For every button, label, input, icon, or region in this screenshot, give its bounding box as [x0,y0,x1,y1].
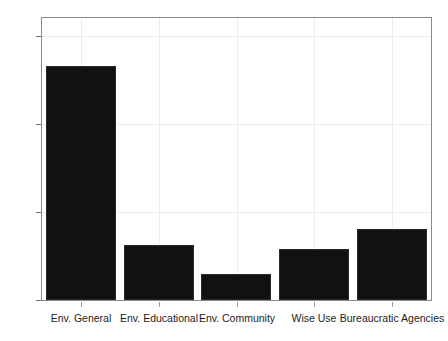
x-tick-mark [314,302,315,307]
bar[interactable] [357,229,427,300]
plot-inner [42,18,431,300]
bar[interactable] [279,249,349,300]
gridline-vertical [237,18,238,300]
y-tick-mark [36,124,41,125]
bar[interactable] [201,274,271,300]
plot-area [41,17,432,301]
x-tick-label: Bureaucratic Agencies [340,313,444,324]
x-tick-mark [237,302,238,307]
bar[interactable] [46,66,116,300]
bar[interactable] [124,245,194,300]
x-tick-label: Env. Educational [120,313,198,324]
y-tick-mark [36,36,41,37]
x-tick-mark [81,302,82,307]
x-tick-label: Wise Use [292,313,337,324]
x-tick-mark [159,302,160,307]
x-tick-label: Env. General [51,313,112,324]
x-tick-label: Env. Community [199,313,275,324]
y-tick-mark [36,300,41,301]
x-tick-mark [392,302,393,307]
y-tick-mark [36,212,41,213]
bar-chart: 050100150 Env. GeneralEnv. EducationalEn… [0,0,448,341]
